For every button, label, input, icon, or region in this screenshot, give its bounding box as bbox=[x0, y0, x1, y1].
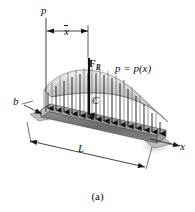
length-dimension-line bbox=[30, 141, 145, 167]
resultant-force-subscript: R bbox=[96, 63, 101, 72]
label-x-axis: x bbox=[180, 141, 185, 152]
label-length: L bbox=[78, 143, 84, 154]
figure-caption: (a) bbox=[0, 190, 195, 202]
label-centroid: C bbox=[92, 96, 99, 106]
width-extension-upper bbox=[22, 101, 33, 104]
label-resultant-force: FR bbox=[89, 58, 101, 72]
label-width: b bbox=[13, 96, 19, 107]
label-load-function: p = p(x) bbox=[115, 63, 151, 74]
overline bbox=[64, 25, 68, 26]
xbar-text: x bbox=[64, 25, 69, 37]
figure-container: p x FR p = p(x) C b L x (a) bbox=[0, 0, 195, 212]
label-pressure-axis: p bbox=[41, 5, 47, 16]
xbar-overline-wrap: x bbox=[64, 26, 69, 37]
beam-distributed-load-diagram bbox=[0, 0, 195, 212]
resultant-force-symbol: F bbox=[89, 57, 96, 69]
length-extension-left bbox=[27, 122, 31, 143]
label-centroid-distance: x bbox=[64, 26, 69, 37]
